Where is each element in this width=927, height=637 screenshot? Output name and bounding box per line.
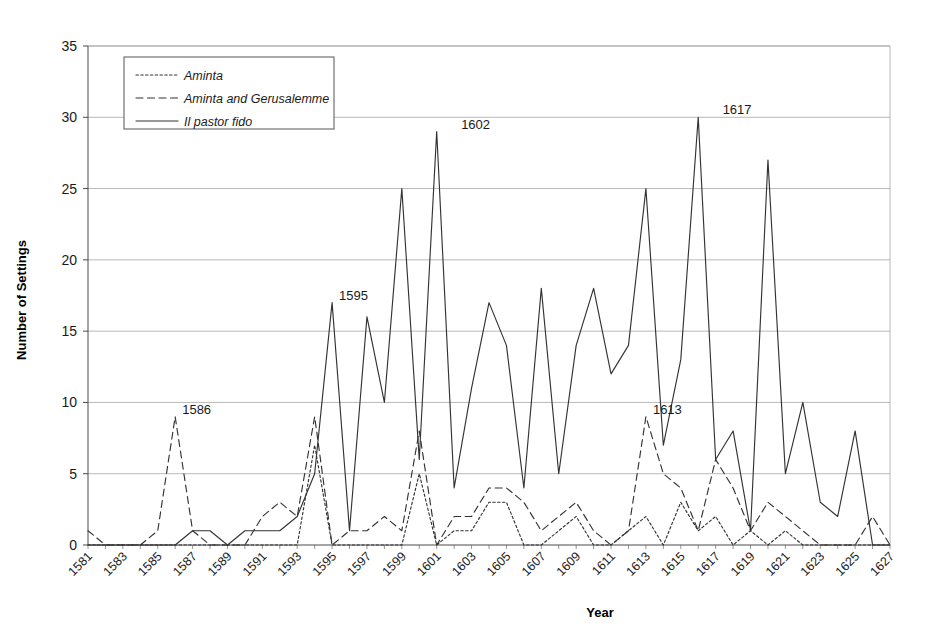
y-tick-label-5: 5 <box>69 466 77 482</box>
chart-legend: AmintaAminta and GerusalemmeIl pastor fi… <box>124 57 334 129</box>
y-tick-label-25: 25 <box>61 181 77 197</box>
chart-figure: 05101520253035 1581158315851587158915911… <box>0 0 927 637</box>
y-tick-label-10: 10 <box>61 394 77 410</box>
y-tick-label-30: 30 <box>61 109 77 125</box>
y-tick-label-35: 35 <box>61 38 77 54</box>
legend-label-2: Il pastor fido <box>184 115 252 129</box>
annotation-1595: 1595 <box>339 288 368 303</box>
annotation-1617: 1617 <box>723 102 752 117</box>
y-axis-title: Number of Settings <box>14 240 29 360</box>
y-tick-label-0: 0 <box>69 537 77 553</box>
annotation-1613: 1613 <box>653 402 682 417</box>
x-axis-title: Year <box>586 605 613 620</box>
annotation-1586: 1586 <box>182 402 211 417</box>
y-tick-label-15: 15 <box>61 323 77 339</box>
annotation-1602: 1602 <box>461 117 490 132</box>
y-tick-label-20: 20 <box>61 252 77 268</box>
legend-label-0: Aminta <box>183 69 223 83</box>
line-chart: 05101520253035 1581158315851587158915911… <box>0 0 927 637</box>
legend-label-1: Aminta and Gerusalemme <box>183 92 329 106</box>
